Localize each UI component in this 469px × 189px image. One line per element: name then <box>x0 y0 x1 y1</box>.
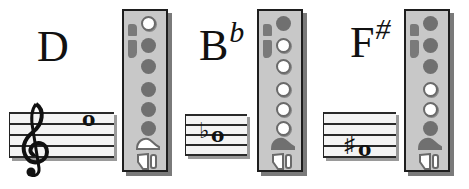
bottom-key-closed-icon <box>270 137 296 151</box>
fingering-chart <box>257 9 303 172</box>
hole-2-open <box>276 38 291 53</box>
staff-line <box>324 112 396 114</box>
whole-note: o <box>82 109 95 129</box>
foot-keys-icon <box>270 153 296 171</box>
hole-5-closed <box>141 102 156 117</box>
hole-6-closed <box>423 121 438 136</box>
side-key-icon <box>128 40 137 58</box>
foot-keys-icon <box>135 153 161 171</box>
staff-line <box>186 154 247 156</box>
note-name: D <box>37 22 69 71</box>
fingering-group-b-flat: Bb ♭ o <box>175 0 315 189</box>
side-key-icon <box>410 40 419 58</box>
foot-keys-icon <box>417 153 443 171</box>
thumb-key-icon <box>263 24 272 36</box>
hole-2-closed <box>423 38 438 53</box>
staff-line <box>324 134 396 136</box>
side-key-icon <box>263 40 272 58</box>
flat-sign: ♭ <box>199 120 209 142</box>
hole-4-open <box>423 82 438 97</box>
staff-fragment: ♭ o <box>185 114 247 156</box>
staff-line <box>186 114 247 116</box>
hole-5-open <box>423 102 438 117</box>
hole-4-closed <box>141 82 156 97</box>
whole-note: o <box>211 125 224 145</box>
note-name: F <box>350 18 374 67</box>
hole-1-closed <box>276 16 291 31</box>
hole-3-closed <box>141 59 156 74</box>
fingering-group-d: D o <box>0 0 175 189</box>
thumb-key-icon <box>128 24 137 36</box>
bottom-key-open-icon <box>135 137 161 151</box>
whole-note: o <box>358 139 371 159</box>
fingering-group-f-sharp: F# ♯ o <box>315 0 469 189</box>
note-label: F# <box>350 21 390 69</box>
hole-2-closed <box>141 38 156 53</box>
staff-line <box>324 123 396 125</box>
sharp-sign: ♯ <box>344 134 355 156</box>
treble-clef-icon <box>17 100 53 180</box>
bottom-key-closed-icon <box>417 137 443 151</box>
fingering-chart <box>404 9 450 172</box>
note-label: D <box>37 25 70 73</box>
staff-fragment: ♯ o <box>323 112 396 158</box>
fingering-chart <box>122 9 168 172</box>
note-label: Bb <box>199 24 244 72</box>
hole-4-open <box>276 82 291 97</box>
note-name: B <box>199 21 228 70</box>
note-accidental: # <box>375 12 390 45</box>
hole-3-open <box>276 59 291 74</box>
hole-1-open <box>141 16 156 31</box>
hole-5-open <box>276 102 291 117</box>
hole-6-open <box>276 121 291 136</box>
hole-6-closed <box>141 121 156 136</box>
hole-3-closed <box>423 59 438 74</box>
hole-1-closed <box>423 16 438 31</box>
thumb-key-icon <box>410 24 419 36</box>
note-accidental: b <box>229 15 244 48</box>
